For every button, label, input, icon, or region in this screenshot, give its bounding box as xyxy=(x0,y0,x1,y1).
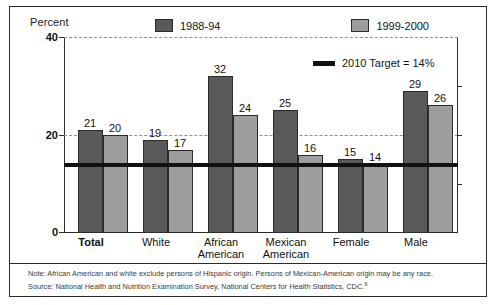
bar-value-female-1999-2000: 14 xyxy=(361,151,389,163)
category-mexican-line2: American xyxy=(240,248,332,260)
bar-value-white-1999-2000: 17 xyxy=(166,137,194,149)
bar-total-1999-2000[interactable] xyxy=(103,135,128,233)
chart-legend: 1988-94 1999-2000 xyxy=(155,19,429,32)
bar-african-american-1988-94[interactable] xyxy=(208,76,233,233)
bar-value-male-1999-2000: 26 xyxy=(426,92,454,104)
footnote-source-line: Source: National Health and Nutrition Ex… xyxy=(28,279,478,292)
bar-male-1988-94[interactable] xyxy=(403,91,428,233)
dark-gray-swatch-icon xyxy=(155,19,173,32)
target-line-swatch-icon xyxy=(313,61,335,66)
light-gray-swatch-icon xyxy=(351,19,369,32)
category-label-male: Male xyxy=(370,236,462,248)
bar-value-mexican-american-1988-94: 25 xyxy=(271,97,299,109)
footnote-divider xyxy=(10,263,486,264)
chart-figure: Percent 1988-94 1999-2000 2010 Target = … xyxy=(0,0,497,305)
bar-mexican-american-1988-94[interactable] xyxy=(273,110,298,233)
target-reference-line xyxy=(64,163,458,167)
y-axis-title: Percent xyxy=(30,16,69,28)
y-tick-label-40: 40 xyxy=(32,31,58,43)
legend-label-1988-94: 1988-94 xyxy=(180,20,220,32)
bar-value-total-1988-94: 21 xyxy=(76,117,104,129)
category-male-line1: Male xyxy=(370,236,462,248)
bar-value-male-1988-94: 29 xyxy=(401,78,429,90)
bar-male-1999-2000[interactable] xyxy=(428,105,453,233)
legend-item-1988-94[interactable]: 1988-94 xyxy=(155,19,220,32)
bar-white-1988-94[interactable] xyxy=(143,140,168,233)
bar-total-1988-94[interactable] xyxy=(78,130,103,233)
bar-african-american-1999-2000[interactable] xyxy=(233,115,258,233)
legend-label-target: 2010 Target = 14% xyxy=(342,57,434,69)
footnote-source: Source: National Health and Nutrition Ex… xyxy=(28,282,364,291)
legend-item-target[interactable]: 2010 Target = 14% xyxy=(313,57,434,69)
bar-female-1988-94[interactable] xyxy=(338,159,363,233)
bar-value-white-1988-94: 19 xyxy=(141,127,169,139)
bar-female-1999-2000[interactable] xyxy=(363,164,388,233)
bar-value-african-american-1988-94: 32 xyxy=(206,63,234,75)
footnote-note: Note: African American and white exclude… xyxy=(28,269,478,279)
legend-label-1999-2000: 1999-2000 xyxy=(376,20,429,32)
bar-value-mexican-american-1999-2000: 16 xyxy=(296,142,324,154)
bar-value-female-1988-94: 15 xyxy=(336,146,364,158)
bar-value-african-american-1999-2000: 24 xyxy=(231,102,259,114)
footnote-source-superscript: 9 xyxy=(364,281,367,287)
y-tick-label-20: 20 xyxy=(32,129,58,141)
legend-item-1999-2000[interactable]: 1999-2000 xyxy=(351,19,429,32)
footnote-block: Note: African American and white exclude… xyxy=(28,269,478,292)
bar-value-total-1999-2000: 20 xyxy=(101,122,129,134)
